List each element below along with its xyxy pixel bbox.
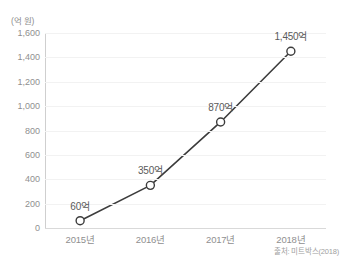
y-axis-tick-labels: 02004006008001,0001,2001,4001,600 bbox=[0, 33, 40, 228]
gridline bbox=[45, 155, 326, 156]
data-point-marker bbox=[76, 217, 84, 225]
data-point-marker bbox=[287, 47, 295, 55]
y-axis-tick-label: 200 bbox=[2, 199, 40, 209]
data-point-marker bbox=[146, 181, 154, 189]
data-point-label: 60억 bbox=[70, 198, 90, 213]
data-point-label: 870억 bbox=[208, 99, 233, 114]
series-line bbox=[80, 51, 291, 220]
y-axis-tick-label: 1,600 bbox=[2, 28, 40, 38]
y-axis-tick-label: 1,400 bbox=[2, 52, 40, 62]
data-point-label: 350억 bbox=[138, 162, 163, 177]
source-note: 출처: 미트박스(2018) bbox=[274, 245, 339, 256]
x-axis-tick-label: 2017년 bbox=[206, 232, 235, 246]
gridline bbox=[45, 106, 326, 107]
y-axis-unit-label: (억 원) bbox=[11, 14, 34, 26]
x-axis-tick-label: 2016년 bbox=[136, 232, 165, 246]
axis-baseline bbox=[45, 228, 326, 229]
y-axis-tick-label: 400 bbox=[2, 174, 40, 184]
y-axis-tick-label: 800 bbox=[2, 126, 40, 136]
y-axis-tick-label: 0 bbox=[2, 223, 40, 233]
data-point-label: 1,450억 bbox=[274, 28, 307, 43]
gridline bbox=[45, 82, 326, 83]
y-axis-tick-label: 1,000 bbox=[2, 101, 40, 111]
x-axis-tick-label: 2015년 bbox=[66, 232, 95, 246]
plot-area: 60억350억870억1,450억 bbox=[45, 33, 326, 228]
y-axis-tick-label: 600 bbox=[2, 150, 40, 160]
data-point-marker bbox=[217, 118, 225, 126]
gridline bbox=[45, 179, 326, 180]
gridline bbox=[45, 57, 326, 58]
gridline bbox=[45, 131, 326, 132]
x-axis-tick-label: 2018년 bbox=[276, 232, 305, 246]
line-chart: (억 원) 02004006008001,0001,2001,4001,600 … bbox=[0, 0, 342, 262]
y-axis-tick-label: 1,200 bbox=[2, 77, 40, 87]
